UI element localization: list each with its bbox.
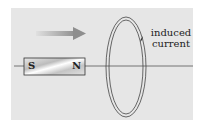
wire-loop: [106, 17, 146, 117]
south-pole-label: S: [28, 60, 35, 71]
right-arrow-icon: [36, 27, 86, 40]
induced-current-label: induced current: [147, 27, 195, 49]
annotation-line2: current: [147, 38, 195, 49]
north-pole-label: N: [72, 60, 81, 71]
annotation-line1: induced: [147, 27, 195, 38]
